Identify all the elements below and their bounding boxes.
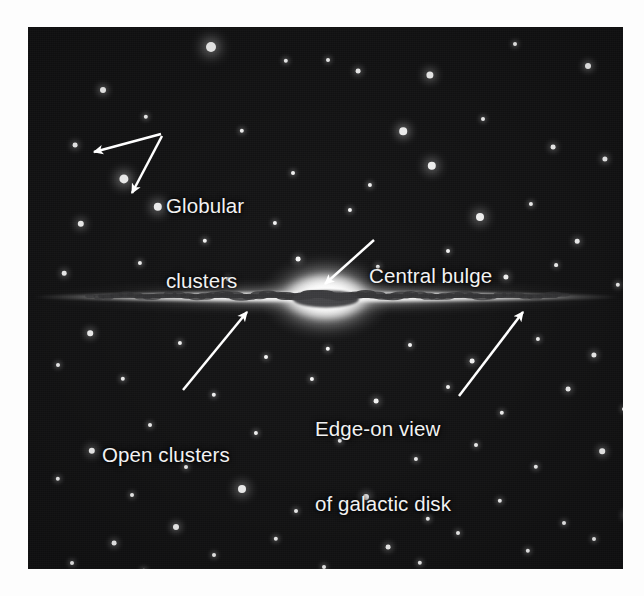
label-globular-clusters-line1: Globular [166,193,244,218]
label-central-bulge-line1: Central bulge [369,263,492,288]
label-open-clusters: Open clusters [102,392,230,517]
label-edge-on-view: Edge-on view of galactic disk [315,366,451,566]
label-globular-clusters: Globular clusters [166,143,244,343]
arrow-globular-cluster-upper [94,134,161,152]
arrow-globular-cluster-lower [132,136,162,193]
photographic-plate: Globular clusters Central bulge Open clu… [28,27,623,569]
label-globular-clusters-line2: clusters [166,268,244,293]
label-central-bulge: Central bulge [369,213,492,338]
galaxy-diagram-figure: Globular clusters Central bulge Open clu… [0,0,644,596]
arrow-central-bulge [325,240,374,284]
label-edge-on-view-line1: Edge-on view [315,416,451,441]
label-edge-on-view-line2: of galactic disk [315,491,451,516]
label-open-clusters-line1: Open clusters [102,442,230,467]
